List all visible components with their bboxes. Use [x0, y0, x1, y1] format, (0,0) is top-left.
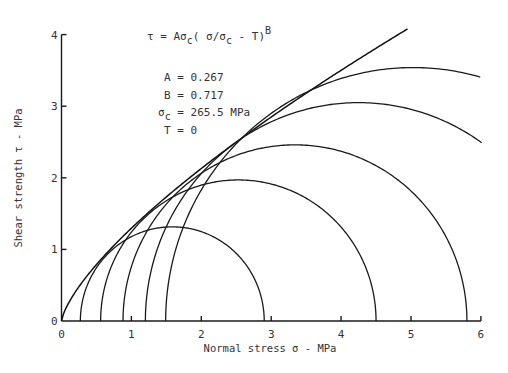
x-tick-label: 1 — [128, 328, 135, 341]
param-sigma-c: σc = 265.5 MPa — [158, 106, 250, 119]
y-tick-label: 1 — [51, 243, 58, 256]
param-b: B = 0.717 — [164, 89, 224, 102]
y-axis-label: Shear strength τ - MPa — [12, 108, 24, 247]
x-axis-label: Normal stress σ - MPa — [204, 342, 337, 354]
equation-sub: c — [187, 35, 193, 46]
failure-envelope — [62, 29, 408, 321]
equation-part: ( σ/σ — [193, 30, 226, 43]
mohr-circle — [101, 180, 376, 321]
y-tick-label: 4 — [51, 29, 58, 42]
param-a: A = 0.267 — [164, 71, 224, 84]
y-tick-label: 2 — [51, 172, 58, 185]
sigma-c-value: = 265.5 MPa — [177, 106, 250, 119]
param-t: T = 0 — [164, 124, 197, 137]
y-tick-label: 0 — [51, 315, 58, 328]
equation-sub: c — [226, 35, 232, 46]
chart-plot: 012345601234 Normal stress σ - MPa Shear… — [0, 0, 508, 373]
x-tick-label: 2 — [198, 328, 205, 341]
y-tick-label: 3 — [51, 100, 58, 113]
x-tick-label: 6 — [478, 328, 485, 341]
x-tick-label: 0 — [58, 328, 65, 341]
equation-part: τ = Aσ — [147, 30, 187, 43]
x-tick-label: 4 — [338, 328, 345, 341]
tick-labels: 012345601234 — [51, 29, 484, 341]
x-tick-label: 3 — [268, 328, 275, 341]
sigma-sub: c — [165, 111, 171, 122]
equation-annotation: τ = Aσc( σ/σc - T)B — [147, 30, 271, 43]
mohr-circle — [123, 145, 467, 321]
equation-sup: B — [265, 25, 271, 36]
x-tick-label: 5 — [408, 328, 415, 341]
equation-part: - T) — [232, 30, 265, 43]
axes — [62, 35, 481, 321]
sigma-symbol: σ — [158, 106, 165, 119]
curves — [62, 29, 482, 321]
